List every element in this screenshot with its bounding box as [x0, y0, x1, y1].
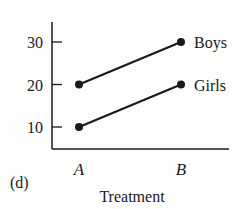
panel-label: (d)	[10, 174, 29, 192]
x-axis-title: Treatment	[99, 188, 165, 205]
y-tick-label: 30	[27, 34, 43, 51]
data-point	[177, 38, 185, 46]
data-point	[75, 123, 83, 131]
x-tick-label-a: A	[73, 160, 85, 179]
series-lines: BoysGirls	[75, 34, 227, 131]
y-tick-label: 20	[27, 77, 43, 94]
interaction-plot: 102030 BoysGirls A B (d) Treatment	[0, 0, 245, 209]
series-line-boys	[79, 42, 181, 85]
series-line-girls	[79, 85, 181, 128]
series-label-boys: Boys	[194, 34, 227, 52]
x-tick-label-b: B	[176, 160, 187, 179]
data-point	[75, 81, 83, 89]
y-ticks: 102030	[27, 34, 62, 136]
y-tick-label: 10	[27, 119, 43, 136]
series-label-girls: Girls	[194, 77, 226, 94]
data-point	[177, 81, 185, 89]
